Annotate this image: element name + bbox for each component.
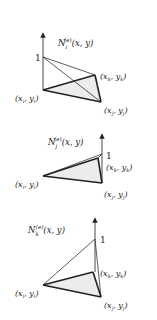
node-k-label: (xk, yk) — [106, 163, 132, 173]
function-label: Ni(e)(x, y) — [57, 37, 93, 50]
node-i-label: (xi, yi) — [15, 94, 39, 104]
function-label: Nj(e)(x, y) — [47, 136, 83, 150]
node-j-label: (xj, yj) — [104, 190, 128, 201]
peak-label: 1 — [100, 235, 106, 245]
peak-label: 1 — [35, 53, 41, 63]
node-k-label: (xk, yk) — [100, 72, 126, 82]
node-i-label: (xi, yi) — [15, 289, 39, 299]
shape-function-diagram: 1 Ni(e)(x, y) (xi, yi) (xk, yk) (xj, yj)… — [0, 0, 157, 320]
node-i-label: (xi, yi) — [15, 180, 39, 190]
node-j-label: (xj, yj) — [104, 301, 128, 312]
node-k-label: (xk, yk) — [100, 269, 126, 279]
edge-peak-k — [43, 57, 95, 75]
panel-nk: 1 Nk(e)(x, y) (xi, yi) (xk, yk) (xj, yj) — [15, 220, 128, 312]
panel-nj: 1 Nj(e)(x, y) (xi, yi) (xk, yk) (xj, yj) — [15, 136, 132, 201]
element-triangle — [43, 272, 101, 297]
node-j-label: (xj, yj) — [104, 106, 128, 117]
function-label: Nk(e)(x, y) — [27, 224, 65, 237]
peak-label: 1 — [106, 151, 112, 161]
panel-ni: 1 Ni(e)(x, y) (xi, yi) (xk, yk) (xj, yj) — [15, 35, 128, 117]
